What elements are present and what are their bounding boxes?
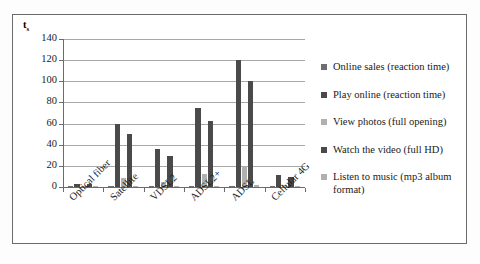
y-axis-tick-label: 140 — [31, 33, 57, 43]
bar — [214, 186, 219, 187]
bar — [133, 186, 138, 187]
legend-swatch — [321, 119, 327, 125]
bar — [248, 81, 253, 187]
bar — [229, 186, 234, 187]
legend-item[interactable]: Online sales (reaction time) — [321, 61, 463, 74]
x-axis-tick-mark — [144, 188, 145, 192]
bar — [93, 186, 98, 187]
x-axis-tick-mark — [184, 188, 185, 192]
bar — [295, 186, 300, 187]
bar — [108, 186, 113, 187]
legend-label: Online sales (reaction time) — [333, 61, 449, 74]
legend-item[interactable]: Watch the video (full HD) — [321, 144, 463, 157]
bar — [270, 186, 275, 187]
y-axis-tick-label: 40 — [31, 139, 57, 149]
x-axis-tick-mark — [63, 188, 64, 192]
bar-group — [184, 39, 224, 187]
legend-label: View photos (full opening) — [333, 116, 446, 129]
legend-label: Listen to music (mp3 album format) — [333, 171, 463, 196]
bar-group — [144, 39, 184, 187]
bar — [195, 108, 200, 187]
x-axis-tick-mark — [103, 188, 104, 192]
legend-item[interactable]: Play online (reaction time) — [321, 89, 463, 102]
bar — [155, 149, 160, 187]
legend-label: Play online (reaction time) — [333, 89, 445, 102]
legend-swatch — [321, 64, 327, 70]
legend-item[interactable]: View photos (full opening) — [321, 116, 463, 129]
y-axis-tick-label: 80 — [31, 96, 57, 106]
chart-frame: ts 020406080100120140 Optical fiberSatel… — [12, 14, 467, 244]
legend-swatch — [321, 92, 327, 98]
bar — [115, 124, 120, 187]
bar — [174, 186, 179, 187]
legend-label: Watch the video (full HD) — [333, 144, 443, 157]
y-axis-tick-label: 60 — [31, 118, 57, 128]
legend-swatch — [321, 147, 327, 153]
x-axis-tick-mark — [224, 188, 225, 192]
legend-item[interactable]: Listen to music (mp3 album format) — [321, 171, 463, 196]
bar — [236, 60, 241, 187]
bar — [68, 186, 73, 187]
chart-legend: Online sales (reaction time)Play online … — [321, 61, 463, 211]
y-axis-tick-label: 0 — [31, 181, 57, 191]
bar — [254, 185, 259, 187]
legend-swatch — [321, 174, 327, 180]
y-axis-tick-label: 20 — [31, 160, 57, 170]
y-axis-tick-label: 120 — [31, 54, 57, 64]
bar — [149, 186, 154, 187]
x-axis-tick-mark — [265, 188, 266, 192]
y-axis-tick-label: 100 — [31, 75, 57, 85]
chart-page: ts 020406080100120140 Optical fiberSatel… — [0, 0, 480, 264]
bar-group — [224, 39, 264, 187]
bar — [189, 186, 194, 187]
x-axis-tick-mark — [305, 188, 306, 192]
